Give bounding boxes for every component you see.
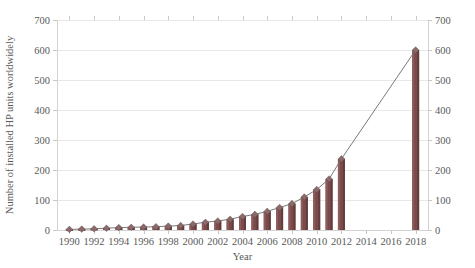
data-marker-1992 <box>91 226 98 233</box>
x-tick-label-2010: 2010 <box>306 236 327 247</box>
y-axis-left-labels: 0100200300400500600700 <box>34 15 50 236</box>
x-tick-label-2014: 2014 <box>356 236 378 247</box>
y-tick-label-right-500: 500 <box>435 75 451 86</box>
bar-highlight-2008 <box>288 204 290 230</box>
trend-line-group <box>69 50 415 229</box>
bar-shadow-2007 <box>281 208 283 231</box>
bar-highlight-2004 <box>239 217 241 231</box>
bar-shadow-2005 <box>256 214 258 230</box>
bar-highlight-2007 <box>276 208 278 231</box>
y-axis-title: Number of installed HP units worldwidely <box>4 35 15 214</box>
bar-highlight-2010 <box>313 190 315 231</box>
x-axis-title: Year <box>233 251 253 262</box>
x-tick-label-2000: 2000 <box>183 236 204 247</box>
y-tick-label-right-300: 300 <box>435 135 451 146</box>
chart-canvas: 0100200300400500600700 01002003004005006… <box>0 0 475 268</box>
data-marker-1991 <box>78 226 85 233</box>
bar-highlight-2005 <box>251 214 253 230</box>
y-tick-label-left-500: 500 <box>34 75 50 86</box>
trend-line-path <box>69 50 415 229</box>
y-tick-label-left-0: 0 <box>45 225 50 236</box>
y-tick-label-right-700: 700 <box>435 15 451 26</box>
x-tick-label-2002: 2002 <box>207 236 228 247</box>
bar-highlight-2011 <box>326 179 328 230</box>
data-marker-1990 <box>66 226 73 233</box>
y-tick-label-left-400: 400 <box>34 105 50 116</box>
y-tick-label-right-400: 400 <box>435 105 451 116</box>
x-axis-title-group: Year <box>233 251 253 262</box>
y-tick-label-right-100: 100 <box>435 195 451 206</box>
bar-highlight-2018 <box>412 50 414 230</box>
y-tick-label-left-200: 200 <box>34 165 50 176</box>
x-tick-label-1990: 1990 <box>59 236 80 247</box>
x-tick-label-1992: 1992 <box>84 236 105 247</box>
bar-highlight-2009 <box>301 197 303 230</box>
bar-highlight-2006 <box>264 211 266 230</box>
y-tick-label-right-600: 600 <box>435 45 451 56</box>
x-tick-label-2006: 2006 <box>257 236 278 247</box>
x-tick-label-2012: 2012 <box>331 236 352 247</box>
x-tick-label-2004: 2004 <box>232 236 254 247</box>
y-tick-label-left-700: 700 <box>34 15 50 26</box>
bar-shadow-2012 <box>343 159 345 230</box>
y-tick-label-right-0: 0 <box>435 225 440 236</box>
y-tick-label-left-300: 300 <box>34 135 50 146</box>
x-tick-label-1996: 1996 <box>133 236 154 247</box>
x-tick-label-1998: 1998 <box>158 236 179 247</box>
markers-group <box>66 47 419 233</box>
x-tick-label-2008: 2008 <box>281 236 302 247</box>
bar-shadow-2004 <box>244 217 246 231</box>
x-axis-labels: 1990199219941996199820002002200420062008… <box>59 236 426 247</box>
axis-lines-group <box>53 16 432 234</box>
y-tick-label-left-600: 600 <box>34 45 50 56</box>
bar-shadow-2006 <box>269 211 271 230</box>
y-tick-label-right-200: 200 <box>435 165 451 176</box>
bar-shadow-2011 <box>331 179 333 230</box>
x-tick-label-2016: 2016 <box>380 236 401 247</box>
bar-shadow-2018 <box>417 50 419 230</box>
chart-container: 0100200300400500600700 01002003004005006… <box>0 0 475 268</box>
bar-shadow-2010 <box>318 190 320 231</box>
x-tick-label-1994: 1994 <box>108 236 130 247</box>
x-tick-label-2018: 2018 <box>405 236 426 247</box>
bar-shadow-2008 <box>293 204 295 230</box>
gridlines-group <box>57 21 428 231</box>
bar-highlight-2012 <box>338 159 340 230</box>
y-tick-label-left-100: 100 <box>34 195 50 206</box>
y-axis-title-group: Number of installed HP units worldwidely <box>4 35 15 214</box>
bar-shadow-2009 <box>306 197 308 230</box>
y-axis-right-labels: 0100200300400500600700 <box>435 15 451 236</box>
